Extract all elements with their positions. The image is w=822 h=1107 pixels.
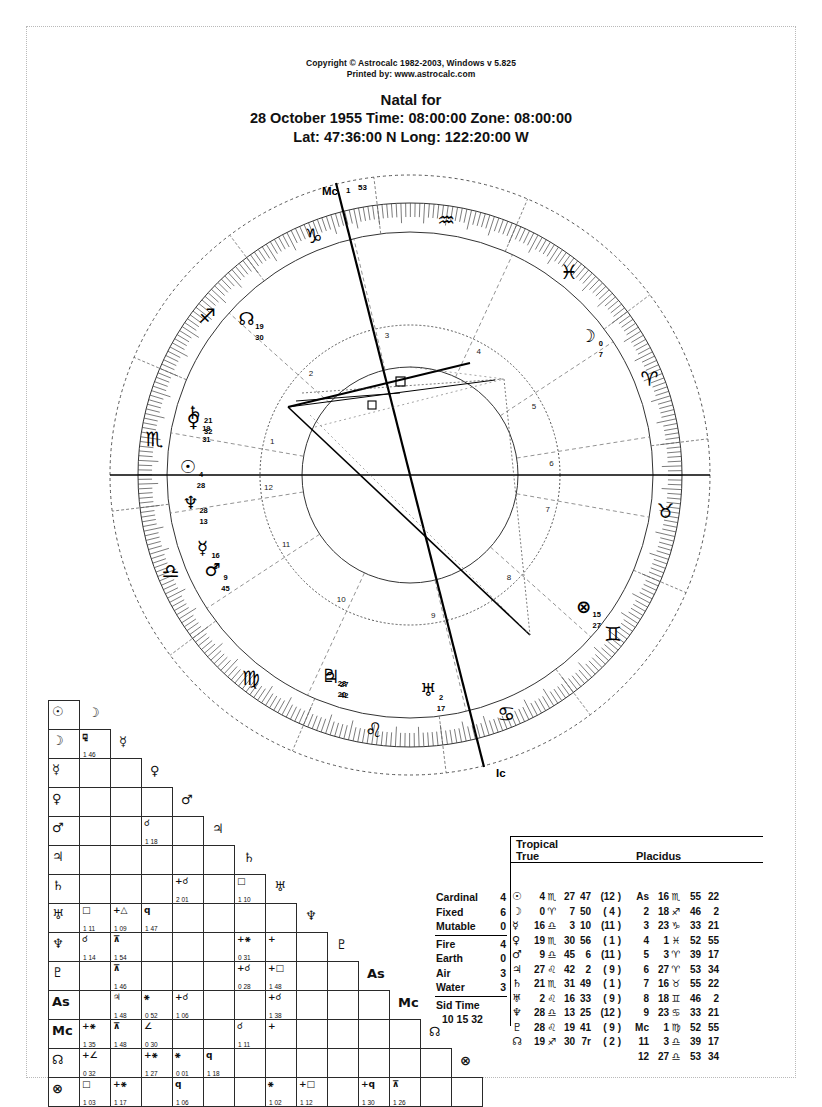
aspect-cell[interactable] — [204, 991, 235, 1020]
aspect-cell[interactable]: ⊼1 46 — [111, 962, 142, 991]
aspect-cell[interactable] — [142, 933, 173, 962]
aspect-cell[interactable]: ⊼1 54 — [111, 933, 142, 962]
aspect-cell[interactable]: □1 03 — [80, 1078, 111, 1107]
aspect-cell[interactable]: ☌1 14 — [80, 933, 111, 962]
aspect-cell[interactable] — [235, 904, 266, 933]
aspect-cell[interactable] — [390, 1049, 421, 1078]
aspect-cell[interactable]: ♃1 48 — [111, 991, 142, 1020]
aspect-cell[interactable] — [111, 759, 142, 788]
aspect-cell[interactable] — [452, 1078, 483, 1107]
aspect-cell[interactable] — [111, 817, 142, 846]
aspect-cell[interactable] — [390, 1020, 421, 1049]
aspect-cell[interactable] — [173, 846, 204, 875]
aspect-cell[interactable]: ∠0 30 — [142, 1020, 173, 1049]
aspect-cell[interactable] — [80, 991, 111, 1020]
aspect-cell[interactable] — [111, 1049, 142, 1078]
aspect-cell[interactable] — [80, 788, 111, 817]
aspect-cell[interactable] — [297, 1020, 328, 1049]
planet-sun[interactable]: ☉428 — [180, 456, 205, 490]
aspect-cell[interactable] — [142, 962, 173, 991]
aspect-cell[interactable]: +q1 30 — [359, 1078, 390, 1107]
aspect-cell[interactable] — [359, 991, 390, 1020]
aspect-cell[interactable]: □1 10 — [235, 875, 266, 904]
aspect-cell[interactable] — [80, 875, 111, 904]
aspect-cell[interactable] — [359, 1020, 390, 1049]
aspect-cell[interactable]: □1 11 — [80, 904, 111, 933]
aspect-cell[interactable]: ⊼1 48 — [111, 1020, 142, 1049]
aspect-cell[interactable] — [297, 991, 328, 1020]
aspect-cell[interactable] — [111, 788, 142, 817]
aspect-cell[interactable]: +□1 12 — [297, 1078, 328, 1107]
aspect-cell[interactable]: ⚹1 02 — [266, 1078, 297, 1107]
aspect-cell[interactable] — [235, 1078, 266, 1107]
aspect-cell[interactable] — [204, 846, 235, 875]
planet-mars[interactable]: ♂945 — [204, 559, 229, 593]
aspect-cell[interactable] — [297, 962, 328, 991]
aspect-cell[interactable] — [204, 962, 235, 991]
aspect-cell[interactable]: +⚹1 17 — [111, 1078, 142, 1107]
aspect-cell[interactable]: +☌1 38 — [266, 991, 297, 1020]
planet-part-of-fortune[interactable]: ⊗1527 — [576, 596, 601, 630]
aspect-cell[interactable] — [266, 904, 297, 933]
aspect-cell[interactable]: +∠0 32 — [80, 1049, 111, 1078]
aspect-cell[interactable] — [204, 1020, 235, 1049]
aspect-cell[interactable] — [173, 1020, 204, 1049]
aspect-cell[interactable] — [421, 1078, 452, 1107]
aspect-cell[interactable]: +☌2 01 — [173, 875, 204, 904]
aspect-cell[interactable] — [142, 788, 173, 817]
aspect-cell[interactable] — [359, 1049, 390, 1078]
aspect-cell[interactable] — [142, 875, 173, 904]
aspect-cell[interactable]: ☌1 18 — [142, 817, 173, 846]
aspect-cell[interactable]: q1 18 — [204, 1049, 235, 1078]
planet-moon[interactable]: ☽07 — [580, 325, 603, 359]
aspect-cell[interactable] — [204, 875, 235, 904]
aspect-cell[interactable] — [266, 1049, 297, 1078]
aspect-cell[interactable] — [328, 1049, 359, 1078]
aspect-cell[interactable]: +⚹1 27 — [142, 1049, 173, 1078]
aspect-cell[interactable] — [111, 846, 142, 875]
aspect-cell[interactable] — [204, 1078, 235, 1107]
aspect-cell[interactable] — [80, 962, 111, 991]
aspect-cell[interactable] — [173, 904, 204, 933]
aspect-cell[interactable] — [421, 1049, 452, 1078]
aspect-cell[interactable] — [328, 962, 359, 991]
aspect-cell[interactable] — [111, 875, 142, 904]
aspect-cell[interactable] — [173, 933, 204, 962]
aspect-cell[interactable]: ⊼1 26 — [390, 1078, 421, 1107]
aspect-cell[interactable] — [142, 1078, 173, 1107]
aspect-cell[interactable]: q1 06 — [173, 1078, 204, 1107]
aspect-cell[interactable]: ⚼1 46 — [80, 730, 111, 759]
aspect-cell[interactable] — [328, 1078, 359, 1107]
aspect-cell[interactable]: ☌1 11 — [235, 1020, 266, 1049]
aspect-cell[interactable]: +△1 09 — [111, 904, 142, 933]
aspect-cell[interactable] — [235, 1049, 266, 1078]
aspect-cell[interactable] — [204, 904, 235, 933]
aspect-cell[interactable]: +⚹1 35 — [80, 1020, 111, 1049]
aspect-cell[interactable]: ⚹0 01 — [173, 1049, 204, 1078]
aspect-cell[interactable]: q1 47 — [142, 904, 173, 933]
aspect-cell[interactable]: +☌1 06 — [173, 991, 204, 1020]
aspect-cell[interactable] — [297, 933, 328, 962]
natal-chart-wheel[interactable]: ♈♉♊♋♌♍♎♏♐♑♒♓ 123456789101112 ☉428☽07☿163… — [100, 165, 720, 785]
aspect-cell[interactable]: + — [266, 1020, 297, 1049]
aspect-cell[interactable]: ⚹0 52 — [142, 991, 173, 1020]
aspect-cell[interactable]: + — [266, 933, 297, 962]
planet-saturn[interactable]: ♄2132 — [187, 402, 212, 436]
aspect-cell[interactable] — [80, 846, 111, 875]
planet-pluto[interactable]: ♇2820 — [321, 665, 346, 699]
aspect-cell[interactable]: +☌0 28 — [235, 962, 266, 991]
aspect-cell[interactable] — [80, 817, 111, 846]
aspect-cell[interactable] — [80, 759, 111, 788]
planet-north-node[interactable]: ☊1930 — [239, 308, 264, 342]
aspect-cell[interactable] — [297, 1049, 328, 1078]
aspect-cell[interactable] — [173, 962, 204, 991]
aspect-cell[interactable] — [142, 846, 173, 875]
aspect-cell[interactable] — [204, 933, 235, 962]
aspect-cell[interactable] — [235, 991, 266, 1020]
aspect-cell[interactable] — [328, 1020, 359, 1049]
aspect-cell[interactable] — [328, 991, 359, 1020]
aspect-cell[interactable]: +□1 48 — [266, 962, 297, 991]
aspect-cell[interactable] — [173, 817, 204, 846]
aspect-cell[interactable]: +⚹0 31 — [235, 933, 266, 962]
planet-neptune[interactable]: ♆2813 — [182, 492, 207, 526]
